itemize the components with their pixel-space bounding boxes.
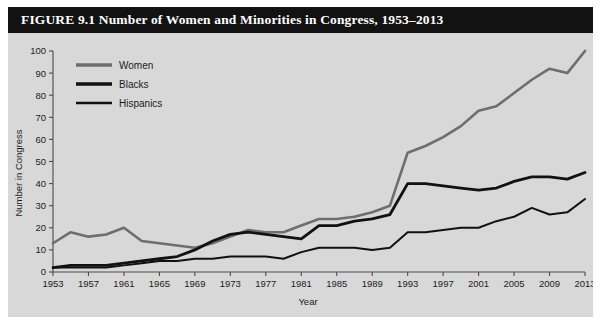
y-axis-tick-label: 80 — [35, 90, 46, 101]
y-axis-tick-label: 50 — [35, 156, 46, 167]
x-axis-tick-label: 1985 — [326, 278, 347, 289]
axes-group: 0102030405060708090100195319571961196519… — [30, 45, 593, 289]
y-axis-tick-label: 100 — [30, 45, 46, 56]
y-axis-tick-label: 60 — [35, 134, 46, 145]
y-axis-tick-label: 10 — [35, 244, 46, 255]
x-axis-tick-label: 1997 — [433, 278, 454, 289]
x-axis-tick-label: 1965 — [149, 278, 170, 289]
x-axis-tick-label: 2005 — [503, 278, 524, 289]
x-axis-tick-label: 1993 — [397, 278, 418, 289]
x-axis-tick-label: 1957 — [78, 278, 99, 289]
chart-legend: WomenBlacksHispanics — [76, 60, 162, 109]
y-axis-tick-label: 70 — [35, 112, 46, 123]
line-chart: 0102030405060708090100195319571961196519… — [8, 33, 593, 317]
x-axis-tick-label: 2013 — [574, 278, 593, 289]
page-title: FIGURE 9.1 Number of Women and Minoritie… — [21, 12, 444, 28]
figure-title-bar: FIGURE 9.1 Number of Women and Minoritie… — [8, 7, 593, 33]
x-axis-tick-label: 2009 — [539, 278, 560, 289]
x-axis-tick-label: 1953 — [42, 278, 63, 289]
chart-plot-area: 0102030405060708090100195319571961196519… — [8, 33, 593, 317]
x-axis-tick-label: 1961 — [113, 278, 134, 289]
y-axis-tick-label: 20 — [35, 222, 46, 233]
x-axis-tick-label: 1973 — [220, 278, 241, 289]
legend-label-women: Women — [119, 60, 153, 71]
y-axis-title: Number in Congress — [13, 129, 24, 216]
figure-container: FIGURE 9.1 Number of Women and Minoritie… — [8, 7, 593, 317]
y-axis-tick-label: 30 — [35, 200, 46, 211]
x-axis-tick-label: 1989 — [362, 278, 383, 289]
y-axis-tick-label: 90 — [35, 68, 46, 79]
x-axis-tick-label: 1969 — [184, 278, 205, 289]
x-axis-tick-label: 1981 — [291, 278, 312, 289]
y-axis-tick-label: 40 — [35, 178, 46, 189]
x-axis-tick-label: 1977 — [255, 278, 276, 289]
y-axis-tick-label: 0 — [41, 266, 46, 277]
legend-label-hispanics: Hispanics — [119, 98, 162, 109]
x-axis-tick-label: 2001 — [468, 278, 489, 289]
x-axis-title: Year — [298, 296, 317, 307]
legend-label-blacks: Blacks — [119, 79, 148, 90]
